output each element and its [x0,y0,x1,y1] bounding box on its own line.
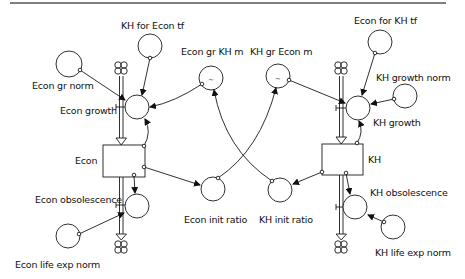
label-econ-gr-norm: Econ gr norm [32,81,93,91]
link-kh-init-to-econ-gr [214,90,272,181]
aux-econ-for-kh-tf[interactable] [368,30,392,54]
flow-econ-obsolescence[interactable] [125,194,149,218]
cloud-sink-icon [335,241,347,253]
aux-kh-for-econ-tf[interactable] [138,34,162,58]
stock-kh[interactable] [322,144,363,175]
flow-kh-growth[interactable] [346,96,370,120]
label-kh-gr-econ-m: KH gr Econ m [250,47,312,57]
label-econ-growth: Econ growth [60,106,117,116]
flow-kh-obsolescence[interactable] [343,195,367,219]
cloud-sink-icon [115,241,127,253]
aux-kh-life-exp-norm[interactable] [381,215,405,239]
label-kh-growth: KH growth [373,118,421,128]
lookup-icon: ~ [208,76,214,84]
kh-growth-pipe [336,76,347,144]
cloud-source-icon [115,62,127,74]
label-kh-growth-norm: KH growth norm [376,73,451,83]
aux-econ-init-ratio[interactable] [201,177,225,201]
stock-econ[interactable] [103,145,145,177]
stock-flow-diagram: ~ ~ [0,0,465,279]
aux-kh-growth-norm[interactable] [393,84,417,108]
label-kh-life-exp-norm: KH life exp norm [375,248,451,258]
label-kh-init-ratio: KH init ratio [259,215,313,225]
cloud-source-icon [335,62,347,74]
label-kh-for-econ-tf: KH for Econ tf [121,21,184,31]
label-econ-for-kh-tf: Econ for KH tf [354,16,417,26]
label-econ-obsolescence: Econ obsolescence [35,195,122,205]
lookup-icon: ~ [275,75,281,83]
link-econ-init-to-kh-gr [218,88,276,178]
aux-econ-gr-norm[interactable] [56,51,82,77]
label-kh-obsolescence: KH obsolescence [370,188,448,198]
label-econ-gr-kh-m: Econ gr KH m [181,47,243,57]
econ-growth-pipe [116,76,127,145]
flow-econ-growth[interactable] [125,95,149,119]
label-stock-kh: KH [368,155,381,165]
valve-icon [336,105,347,111]
label-stock-econ: Econ [75,156,97,166]
label-econ-life-exp-norm: Econ life exp norm [15,260,100,270]
aux-econ-life-exp-norm[interactable] [56,224,80,248]
label-econ-init-ratio: Econ init ratio [184,215,247,225]
